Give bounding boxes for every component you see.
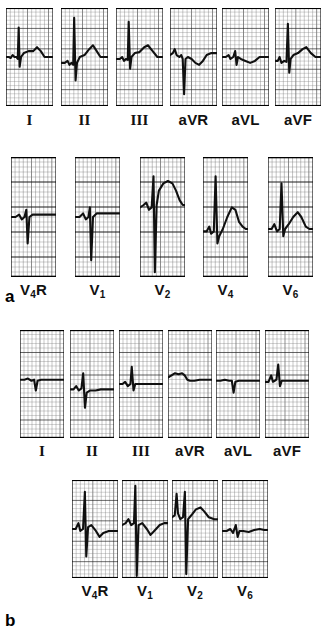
lead-label-b-v4r: V4R bbox=[72, 583, 118, 601]
ecg-panel-a-ii bbox=[61, 8, 108, 106]
lead-label-b-i: I bbox=[20, 443, 64, 459]
ecg-panel-b-v4r bbox=[72, 480, 118, 578]
ecg-figure: IIIIIIaVRaVLaVFV4RV1V2V4V6IIIIIIaVRaVLaV… bbox=[0, 0, 327, 644]
lead-label-a-ii: II bbox=[61, 112, 108, 128]
lead-label-a-avl: aVL bbox=[222, 112, 269, 127]
lead-label-a-avf: aVF bbox=[275, 112, 321, 127]
lead-label-b-v2: V2 bbox=[172, 583, 218, 601]
lead-label-b-v1: V1 bbox=[122, 583, 168, 601]
ecg-panel-a-i bbox=[6, 8, 53, 106]
ecg-panel-b-iii bbox=[119, 330, 163, 438]
part-label-a: a bbox=[5, 288, 14, 305]
lead-label-a-v4r: V4R bbox=[11, 282, 56, 300]
ecg-panel-a-v4r bbox=[11, 157, 56, 277]
ecg-panel-a-v2 bbox=[140, 157, 185, 277]
ecg-panel-b-avf bbox=[265, 330, 309, 438]
lead-label-b-avl: aVL bbox=[216, 443, 260, 458]
ecg-panel-b-i bbox=[20, 330, 64, 438]
ecg-panel-b-avr bbox=[168, 330, 212, 438]
lead-label-b-avr: aVR bbox=[168, 443, 212, 458]
lead-label-a-avr: aVR bbox=[170, 112, 217, 127]
ecg-panel-a-iii bbox=[116, 8, 163, 106]
lead-label-a-v4: V4 bbox=[203, 282, 248, 300]
ecg-panel-b-v2 bbox=[172, 480, 218, 578]
ecg-panel-b-avl bbox=[216, 330, 260, 438]
ecg-panel-b-ii bbox=[70, 330, 114, 438]
ecg-panel-a-v4 bbox=[203, 157, 248, 277]
lead-label-a-v6: V6 bbox=[268, 282, 313, 300]
ecg-panel-b-v1 bbox=[122, 480, 168, 578]
lead-label-a-i: I bbox=[6, 112, 53, 128]
ecg-panel-a-v1 bbox=[75, 157, 120, 277]
part-label-b: b bbox=[5, 612, 15, 629]
lead-label-b-v6: V6 bbox=[222, 583, 268, 601]
ecg-panel-a-avl bbox=[222, 8, 269, 106]
ecg-panel-b-v6 bbox=[222, 480, 268, 578]
ecg-panel-a-avf bbox=[275, 8, 321, 106]
lead-label-b-ii: II bbox=[70, 443, 114, 459]
lead-label-a-v2: V2 bbox=[140, 282, 185, 300]
lead-label-b-avf: aVF bbox=[265, 443, 309, 458]
ecg-panel-a-v6 bbox=[268, 157, 313, 277]
ecg-panel-a-avr bbox=[170, 8, 217, 106]
lead-label-a-iii: III bbox=[116, 112, 163, 128]
lead-label-a-v1: V1 bbox=[75, 282, 120, 300]
lead-label-b-iii: III bbox=[119, 443, 163, 459]
